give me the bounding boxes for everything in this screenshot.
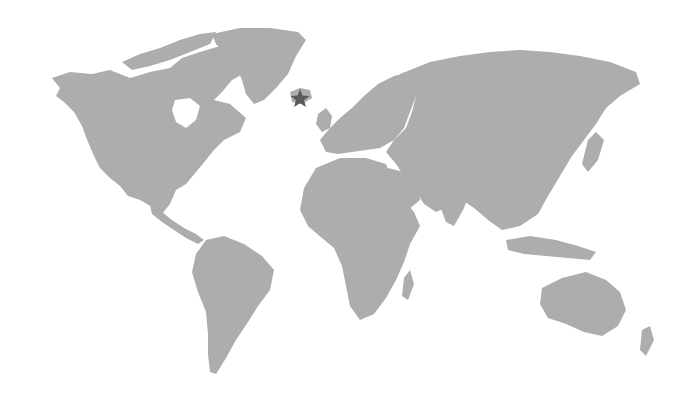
- continent-north-america: [52, 42, 258, 214]
- continent-australia: [540, 272, 626, 336]
- continent-central-america: [150, 205, 204, 244]
- madagascar: [402, 270, 414, 300]
- world-map-svg: [0, 0, 686, 405]
- new-zealand: [640, 326, 654, 356]
- continent-south-america: [192, 236, 274, 374]
- world-map: [0, 0, 686, 405]
- southeast-asia-islands: [506, 236, 596, 260]
- indian-subcontinent: [436, 182, 470, 226]
- british-isles: [316, 108, 332, 132]
